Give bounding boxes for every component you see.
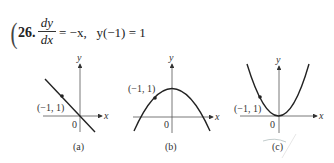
- pencil-mark-2: [282, 134, 296, 158]
- x-axis-label-c: x: [318, 110, 324, 121]
- origin-label-a: 0: [72, 119, 77, 130]
- origin-label-c: 0: [270, 119, 275, 130]
- graph-a: (−1, 1) 0 x y (a): [37, 52, 109, 153]
- point-marker-c: [258, 95, 262, 99]
- point-label-a: (−1, 1): [37, 102, 64, 114]
- origin-label-b: 0: [164, 119, 169, 130]
- point-marker-b: [153, 96, 157, 100]
- point-label-b: (−1, 1): [128, 83, 155, 95]
- y-axis-label-a: y: [76, 52, 82, 63]
- graph-c: (−1, 1) 0 x y (c): [234, 54, 324, 158]
- x-axis-label-a: x: [103, 110, 109, 121]
- y-axis-label-b: y: [168, 52, 174, 63]
- point-label-c: (−1, 1): [234, 103, 261, 115]
- point-marker-a: [60, 94, 64, 98]
- graphs-figure: (−1, 1) 0 x y (a) (−1, 1) 0 x y (b) (−1,…: [0, 0, 334, 163]
- caption-c: (c): [272, 141, 283, 153]
- caption-a: (a): [73, 141, 84, 153]
- y-axis-label-c: y: [275, 54, 281, 65]
- x-axis-label-b: x: [214, 111, 220, 122]
- caption-b: (b): [165, 141, 177, 153]
- graph-b: (−1, 1) 0 x y (b): [128, 52, 220, 153]
